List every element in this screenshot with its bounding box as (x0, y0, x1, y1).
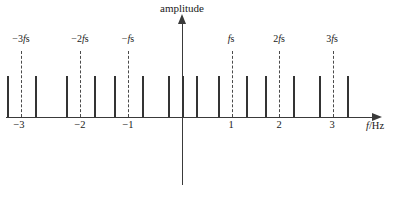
harmonic-label: fs (228, 33, 235, 44)
spectral-line (66, 76, 68, 117)
x-tick-label: −3 (13, 119, 24, 130)
spectral-line (246, 76, 248, 117)
harmonic-label: −2fs (71, 33, 88, 44)
harmonic-subscript: s (334, 33, 338, 44)
spectral-line (265, 76, 267, 117)
x-tick-label: −2 (74, 119, 85, 130)
harmonic-label: 3fs (326, 33, 338, 44)
spectral-line (94, 76, 96, 117)
harmonic-subscript: s (85, 33, 89, 44)
harmonic-label: −fs (122, 33, 134, 44)
spectral-line (114, 76, 116, 117)
frequency-axis-label: f/Hz (366, 120, 384, 131)
carrier-dashed-line (128, 51, 129, 117)
harmonic-subscript: s (230, 33, 234, 44)
spectral-line (347, 76, 349, 117)
x-tick-label: −1 (122, 119, 133, 130)
spectral-line (7, 76, 9, 117)
carrier-dashed-line (279, 51, 280, 117)
harmonic-prefix: −3 (12, 33, 23, 44)
spectral-line (142, 76, 144, 117)
carrier-dashed-line (21, 51, 22, 117)
harmonic-subscript: s (26, 33, 30, 44)
x-tick-label: 1 (228, 119, 233, 130)
harmonic-subscript: s (281, 33, 285, 44)
spectral-line (182, 76, 184, 117)
amplitude-axis-label: amplitude (160, 2, 204, 14)
x-tick-label: 3 (329, 119, 334, 130)
spectrum-figure: amplitude f/Hz −3−2−1123 −3fs−2fs−fsfs2f… (0, 0, 395, 200)
spectral-line (196, 76, 198, 117)
frequency-unit: /Hz (369, 120, 384, 131)
spectral-line (218, 76, 220, 117)
harmonic-label: 2fs (273, 33, 285, 44)
harmonic-subscript: s (130, 33, 134, 44)
harmonic-prefix: −2 (71, 33, 82, 44)
spectral-line (168, 76, 170, 117)
spectral-line (35, 76, 37, 117)
harmonic-label: −3fs (12, 33, 29, 44)
carrier-dashed-line (333, 51, 334, 117)
frequency-axis (6, 117, 376, 118)
amplitude-axis-arrow-icon (178, 14, 186, 24)
x-tick-label: 2 (276, 119, 281, 130)
carrier-dashed-line (80, 51, 81, 117)
carrier-dashed-line (232, 51, 233, 117)
spectral-line (319, 76, 321, 117)
spectral-line (293, 76, 295, 117)
